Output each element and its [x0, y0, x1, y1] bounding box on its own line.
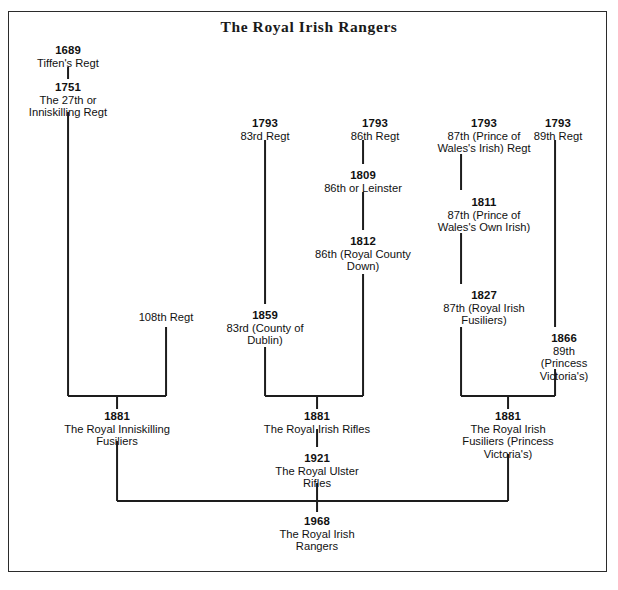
lineage-node-n1793a: 179383rd Regt [240, 117, 289, 142]
node-year: 1881 [462, 410, 553, 423]
node-year: 1809 [324, 169, 402, 182]
conn-83rd-1859 [264, 140, 266, 304]
lineage-node-n1881c: 1881The Royal Irish Fusiliers (Princess … [462, 410, 553, 460]
lineage-node-n108: 108th Regt [139, 311, 194, 324]
conn-1881a-final [116, 441, 118, 501]
lineage-node-n1968: 1968The Royal Irish Rangers [279, 515, 354, 553]
conn-89th-1866 [554, 140, 556, 327]
merge-bar-rangers [117, 500, 508, 502]
conn-1859-merge [264, 347, 266, 396]
node-name: 87th (Prince of Wales's Irish) Regt [437, 130, 530, 155]
node-year: 1827 [443, 289, 524, 302]
node-name: 108th Regt [139, 311, 194, 324]
merge-bar-irish-rifles [265, 395, 363, 397]
node-name: 87th (Royal Irish Fusiliers) [443, 302, 524, 327]
node-name: The Royal Irish Rifles [264, 423, 370, 436]
lineage-node-n1859: 185983rd (County of Dublin) [226, 309, 303, 347]
node-year: 1866 [537, 332, 591, 345]
conn-1827-merge [460, 327, 462, 396]
node-year: 1793 [351, 117, 400, 130]
lineage-node-n1866: 186689th (Princess Victoria's) [537, 332, 591, 382]
lineage-diagram-page: The Royal Irish Rangers 1689Tiffen's Reg… [0, 0, 618, 590]
lineage-node-n1811: 181187th (Prince of Wales's Own Irish) [438, 196, 530, 234]
node-name: Tiffen's Regt [37, 57, 99, 70]
node-name: The Royal Ulster Rifles [275, 465, 358, 490]
node-name: 86th or Leinster [324, 182, 402, 195]
node-year: 1881 [64, 410, 170, 423]
conn-1812-merge [362, 274, 364, 396]
conn-87th-1811 [460, 154, 462, 190]
node-name: The Royal Inniskilling Fusiliers [64, 423, 170, 448]
node-name: The 27th or Inniskilling Regt [29, 94, 107, 119]
lineage-node-n1809: 180986th or Leinster [324, 169, 402, 194]
node-name: The Royal Irish Rangers [279, 528, 354, 553]
conn-1811-1827 [460, 233, 462, 284]
merge-bar-inniskilling [68, 395, 166, 397]
node-year: 1793 [437, 117, 530, 130]
lineage-node-n1793b: 179386th Regt [351, 117, 400, 142]
node-year: 1812 [315, 235, 411, 248]
node-year: 1859 [226, 309, 303, 322]
node-year: 1811 [438, 196, 530, 209]
lineage-node-n1793c: 179387th (Prince of Wales's Irish) Regt [437, 117, 530, 155]
node-name: 83rd (County of Dublin) [226, 322, 303, 347]
node-year: 1793 [240, 117, 289, 130]
conn-86th-1809 [362, 140, 364, 164]
lineage-node-n1881a: 1881The Royal Inniskilling Fusiliers [64, 410, 170, 448]
lineage-node-n1793d: 179389th Regt [534, 117, 583, 142]
node-year: 1793 [534, 117, 583, 130]
node-name: 87th (Prince of Wales's Own Irish) [438, 209, 530, 234]
lineage-node-n1827: 182787th (Royal Irish Fusiliers) [443, 289, 524, 327]
conn-merge3-1881c [507, 395, 509, 409]
conn-108th-merge [165, 327, 167, 396]
node-year: 1689 [37, 44, 99, 57]
conn-1751-merge [67, 112, 69, 396]
node-name: 89th (Princess Victoria's) [537, 345, 591, 383]
node-name: 86th (Royal County Down) [315, 248, 411, 273]
node-name: 83rd Regt [240, 130, 289, 143]
node-name: 86th Regt [351, 130, 400, 143]
node-year: 1751 [29, 81, 107, 94]
merge-bar-irish-fus [461, 395, 555, 397]
conn-1809-1812 [362, 192, 364, 230]
page-title: The Royal Irish Rangers [0, 18, 618, 36]
node-year: 1968 [279, 515, 354, 528]
lineage-node-n1751: 1751The 27th or Inniskilling Regt [29, 81, 107, 119]
node-year: 1881 [264, 410, 370, 423]
lineage-node-n1921: 1921The Royal Ulster Rifles [275, 452, 358, 490]
node-year: 1921 [275, 452, 358, 465]
lineage-node-n1689: 1689Tiffen's Regt [37, 44, 99, 69]
conn-1881c-final [507, 454, 509, 501]
node-name: The Royal Irish Fusiliers (Princess Vict… [462, 423, 553, 461]
lineage-node-n1881b: 1881The Royal Irish Rifles [264, 410, 370, 435]
lineage-node-n1812: 181286th (Royal County Down) [315, 235, 411, 273]
node-name: 89th Regt [534, 130, 583, 143]
conn-merge2-1881b [316, 395, 318, 409]
conn-merge1-1881a [116, 395, 118, 409]
